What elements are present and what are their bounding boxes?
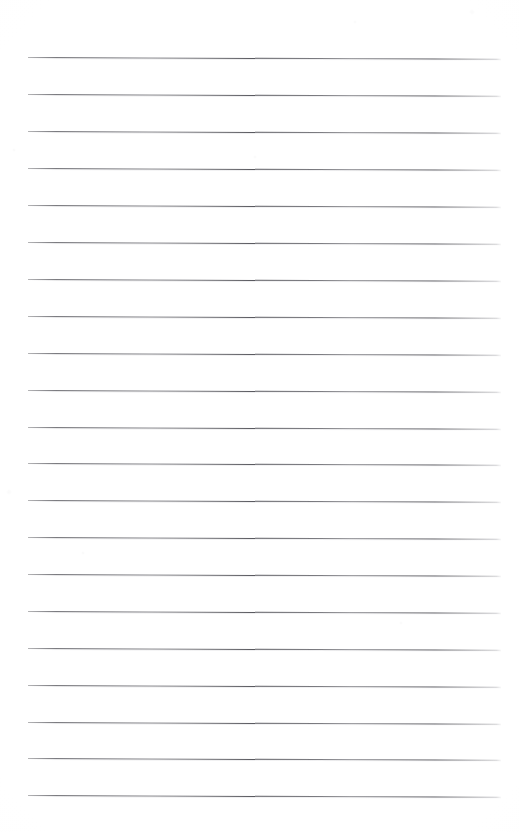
rule-line [28, 279, 501, 282]
rule-line [28, 537, 501, 540]
rule-line [28, 574, 501, 577]
rule-line [28, 94, 501, 97]
rule-line [28, 648, 501, 651]
rule-line [28, 795, 501, 798]
scan-speckle-overlay [0, 0, 519, 832]
rule-line [28, 205, 501, 208]
paper-texture [0, 0, 519, 832]
rule-line [28, 427, 501, 430]
rule-line [28, 685, 501, 688]
rule-line [28, 390, 501, 393]
rule-line [28, 316, 501, 319]
rule-line [28, 500, 501, 503]
notepad-page [0, 0, 519, 832]
rule-line [28, 722, 501, 725]
rule-line [28, 353, 501, 356]
rule-line [28, 463, 501, 466]
rule-line [28, 242, 501, 245]
rule-line [28, 611, 501, 614]
rule-line [28, 168, 501, 171]
rule-line [28, 758, 501, 761]
rule-line [28, 57, 501, 60]
rule-line [28, 131, 501, 134]
